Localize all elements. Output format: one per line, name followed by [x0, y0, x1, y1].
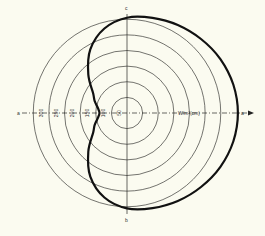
ring-label: 300: [38, 109, 44, 118]
ring-label: 200: [69, 109, 75, 118]
ring-label: 50: [116, 110, 122, 116]
axis-end-top: c: [125, 5, 128, 11]
axis-end-right: a: [241, 110, 244, 116]
polar-chart: 50100150200250300 W/m²(cm) a a c b: [0, 0, 265, 236]
axis-end-left: a: [17, 110, 20, 116]
radial-axis-label: W/m²(cm): [178, 110, 200, 116]
ring-label: 250: [53, 109, 59, 118]
ring-label: 100: [100, 109, 106, 118]
axis-end-bottom: b: [125, 217, 128, 223]
axis-arrow-icon: [248, 111, 254, 116]
ring-label: 150: [84, 109, 90, 118]
